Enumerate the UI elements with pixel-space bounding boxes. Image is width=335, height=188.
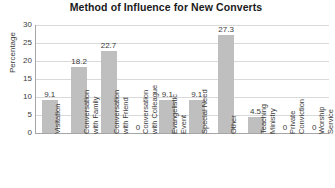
x-label-slot: Evangelistic Event: [154, 134, 180, 188]
x-label-slot: Worship Service: [301, 134, 327, 188]
y-tick-label: 0: [14, 129, 32, 137]
y-tick-label: 20: [14, 57, 32, 65]
x-tick-label: Evangelistic Event: [171, 82, 188, 134]
y-tick-label: 5: [14, 111, 32, 119]
x-label-slot: Conversation with Colleague: [125, 134, 151, 188]
x-tick-label: Other: [230, 82, 239, 134]
x-tick-label: Worship Service: [318, 82, 335, 134]
y-tick-label: 30: [14, 21, 32, 29]
x-tick-label: Conversation with Friend: [113, 82, 130, 134]
x-label-slot: Visitation: [37, 134, 63, 188]
y-axis-tick-labels: 051015202530: [12, 25, 32, 133]
chart-title: Method of Influence for New Converts: [0, 1, 332, 13]
bar-value-label: 27.3: [207, 25, 245, 34]
x-tick-label: Teaching Ministry: [260, 82, 277, 134]
y-tick-label: 10: [14, 93, 32, 101]
x-label-slot: Other: [213, 134, 239, 188]
x-label-slot: Private Conviction: [272, 134, 298, 188]
x-label-slot: Conversation with Friend: [96, 134, 122, 188]
x-tick-label: Visitation: [54, 82, 63, 134]
x-label-slot: Teaching Ministry: [243, 134, 269, 188]
y-tick-label: 15: [14, 75, 32, 83]
x-tick-label: Conversation with Colleague: [142, 82, 159, 134]
x-label-slot: Conversation with Family: [66, 134, 92, 188]
x-tick-label: Special Need: [201, 82, 210, 134]
bar-value-label: 22.7: [90, 41, 128, 50]
y-tick-label: 25: [14, 39, 32, 47]
x-tick-label: Conversation with Family: [83, 82, 100, 134]
bar-value-label: 18.2: [60, 57, 98, 66]
x-axis-category-labels: VisitationConversation with FamilyConver…: [35, 134, 329, 188]
x-tick-label: Private Conviction: [289, 82, 306, 134]
bar-value-label: 9.1: [31, 90, 69, 99]
x-label-slot: Special Need: [184, 134, 210, 188]
